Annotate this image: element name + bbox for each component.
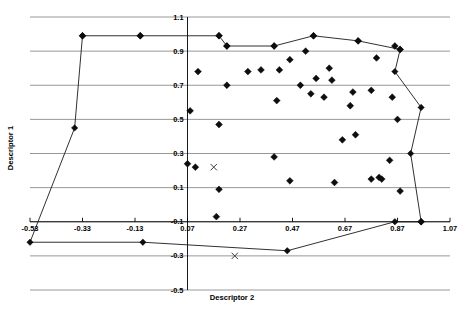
x-axis-title: Descriptor 2: [210, 293, 254, 302]
y-tick-label: 0.5: [173, 115, 183, 124]
x-tick-label: 0.47: [285, 224, 299, 233]
y-tick-label: 0.3: [173, 149, 183, 158]
y-tick-label: -0.5: [171, 286, 184, 295]
y-tick-label: -0.3: [171, 251, 184, 260]
y-tick-label: 0.1: [173, 183, 183, 192]
x-tick-label: -0.33: [74, 224, 91, 233]
scatter-chart: -0.53-0.33-0.130.070.270.470.670.871.071…: [0, 0, 468, 314]
y-tick-label: 0.7: [173, 81, 183, 90]
x-tick-label: 0.27: [233, 224, 247, 233]
x-tick-label: 0.67: [338, 224, 352, 233]
x-tick-label: -0.53: [22, 224, 39, 233]
x-tick-label: -0.13: [127, 224, 144, 233]
y-tick-label: 0.9: [173, 47, 183, 56]
plot-canvas: -0.53-0.33-0.130.070.270.470.670.871.071…: [0, 0, 468, 314]
y-axis-title: Descriptor 1: [6, 125, 15, 170]
chart-background: [0, 0, 468, 314]
x-tick-label: 0.87: [390, 224, 404, 233]
y-tick-label: -0.1: [171, 217, 184, 226]
y-tick-label: 1.1: [173, 13, 183, 22]
x-tick-label: 1.07: [443, 224, 457, 233]
